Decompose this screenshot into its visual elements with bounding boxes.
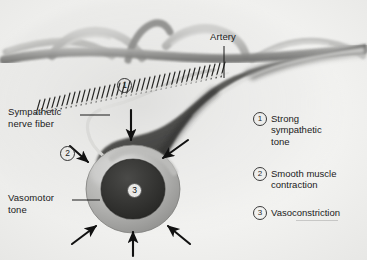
sympathetic-nerve-fiber-label-line2: nerve fiber [8,118,54,130]
marker-3: 3 [127,183,142,198]
legend-item-1: 1 Strong sympathetic tone [253,112,365,147]
legend-bullet-3: 3 [253,206,267,220]
legend-bullet-1: 1 [253,112,267,126]
marker-2: 2 [60,146,75,161]
vasomotor-tone-label-line2: tone [8,204,27,216]
artery-label: Artery [210,31,236,43]
legend-text-3: Vasoconstriction [271,206,340,218]
legend-item-2: 2 Smooth muscle contraction [253,167,365,191]
legend-text-2: Smooth muscle contraction [271,167,336,191]
vasoconstriction-figure: Artery Sympathetic nerve fiber Vasomotor… [0,0,367,260]
sympathetic-nerve-fiber-label-line1: Sympathetic [8,106,61,118]
legend-bullet-2: 2 [253,167,267,181]
scan-artifact [296,220,338,221]
legend-text-1: Strong sympathetic tone [271,112,322,147]
vasomotor-tone-label-line1: Vasomotor [8,192,54,204]
legend-item-3: 3 Vasoconstriction [253,206,365,220]
marker-1: 1 [117,78,132,93]
